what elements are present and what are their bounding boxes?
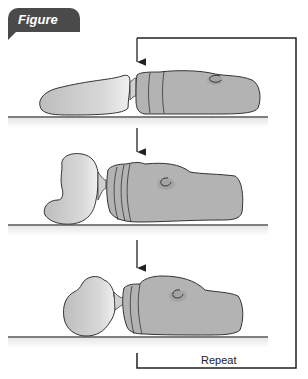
diagram-canvas xyxy=(0,0,308,379)
ground-shadow-3 xyxy=(8,338,268,348)
bulb-2 xyxy=(44,154,98,225)
stage-3-contracted xyxy=(8,240,268,348)
stalk-1 xyxy=(130,78,136,100)
stage-1-extended xyxy=(8,38,268,128)
stalk-2 xyxy=(98,172,106,200)
mouth-spot-2 xyxy=(157,178,175,190)
repeat-label: Repeat xyxy=(201,354,236,366)
body-3 xyxy=(123,276,243,335)
body-1 xyxy=(136,71,260,114)
mouth-spot-3 xyxy=(169,290,187,302)
bulb-1 xyxy=(40,75,130,115)
bulb-3 xyxy=(63,277,115,336)
ground-shadow-2 xyxy=(8,226,268,236)
ground-shadow-1 xyxy=(8,118,268,128)
stage-2-contracting xyxy=(8,128,268,236)
